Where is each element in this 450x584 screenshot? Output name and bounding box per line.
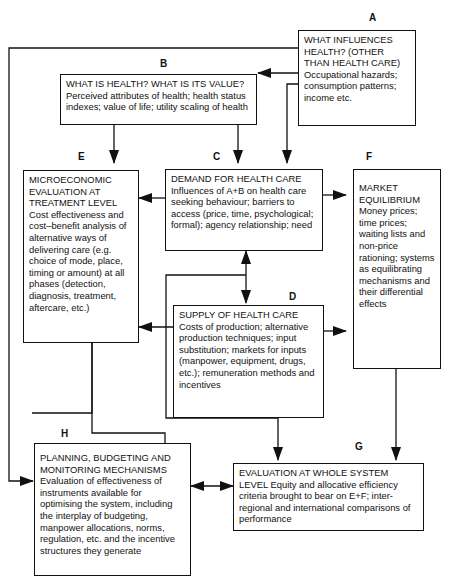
label-e: E [78,151,85,162]
label-b: B [160,58,167,69]
node-f-heading: MARKET EQUILIBRIUM [359,182,420,205]
label-a: A [369,12,376,23]
node-g-whole-system-evaluation: EVALUATION AT WHOLE SYSTEM LEVEL Equity … [233,463,424,531]
label-d: D [289,291,296,302]
node-f-body: Money prices; time prices; waiting lists… [359,205,435,309]
edge-e-to-h-top [92,343,165,443]
label-f: F [366,151,372,162]
edge-e-down [32,343,92,413]
node-a-heading: WHAT INFLUENCES HEALTH? (OTHER THAN HEAL… [304,34,400,68]
label-g: G [355,441,363,452]
node-h-heading: PLANNING, BUDGETING AND MONITORING MECHA… [40,452,171,475]
label-c: C [213,151,220,162]
node-h-planning-budgeting: PLANNING, BUDGETING AND MONITORING MECHA… [34,443,191,576]
node-c-demand: DEMAND FOR HEALTH CARE Influences of A+B… [165,169,323,251]
node-d-heading: SUPPLY OF HEALTH CARE [179,309,298,320]
node-e-body: Cost effectiveness and cost–benefit anal… [29,209,126,313]
node-e-microeconomic-evaluation: MICROECONOMIC EVALUATION AT TREATMENT LE… [23,170,139,343]
edge-a-to-c [287,84,298,163]
label-h: H [61,428,68,439]
node-b-heading: WHAT IS HEALTH? WHAT IS ITS VALUE? [66,78,244,89]
node-c-heading: DEMAND FOR HEALTH CARE [171,173,302,184]
node-d-body: Costs of production; alternative product… [179,321,315,390]
node-f-market-equilibrium: MARKET EQUILIBRIUM Money prices; time pr… [353,169,441,369]
node-b-health-value: WHAT IS HEALTH? WHAT IS ITS VALUE? Perce… [60,74,257,125]
node-b-body: Perceived attributes of health; health s… [66,90,248,113]
node-e-heading: MICROECONOMIC EVALUATION AT TREATMENT LE… [29,174,117,208]
node-a-body: Occupational hazards; consumption patter… [304,69,397,103]
node-h-body: Evaluation of effectiveness of instrumen… [40,475,175,556]
node-c-body: Influences of A+B on health care seeking… [171,185,313,231]
node-d-supply: SUPPLY OF HEALTH CARE Costs of productio… [173,305,324,418]
node-a-health-influences: WHAT INFLUENCES HEALTH? (OTHER THAN HEAL… [298,30,416,126]
